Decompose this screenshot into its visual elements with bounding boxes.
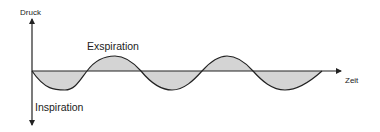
expiration-label: Exspiration (87, 41, 139, 52)
x-axis-label: Zeit (345, 77, 358, 85)
y-axis-label: Druck (20, 9, 41, 17)
inspiration-label: Inspiration (35, 102, 83, 113)
